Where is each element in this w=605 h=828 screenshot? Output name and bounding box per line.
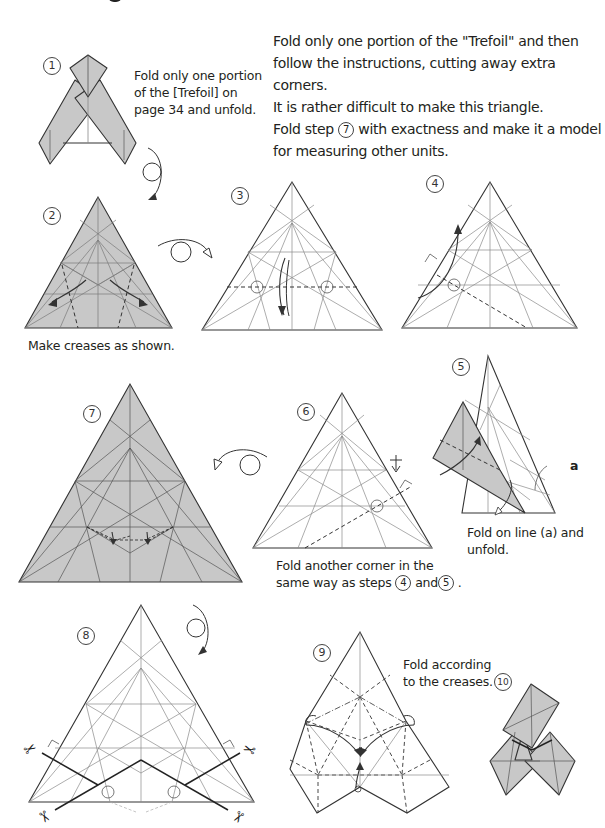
step-10-diagram [0,0,605,828]
